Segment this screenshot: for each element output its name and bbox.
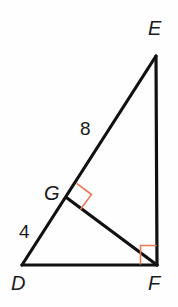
segment-DE xyxy=(22,56,156,265)
vertex-label-F: F xyxy=(148,273,160,293)
vertex-label-D: D xyxy=(11,273,25,293)
figure-svg xyxy=(0,0,178,307)
triangle-outline xyxy=(22,56,157,265)
measure-label-GE: 8 xyxy=(80,119,91,138)
measure-label-DG: 4 xyxy=(19,222,30,241)
vertex-label-E: E xyxy=(148,18,161,38)
vertex-label-G: G xyxy=(44,183,60,203)
segment-EF xyxy=(156,56,157,265)
geometry-diagram: E G D F 8 4 xyxy=(0,0,178,307)
right-angle-markers xyxy=(77,183,157,264)
